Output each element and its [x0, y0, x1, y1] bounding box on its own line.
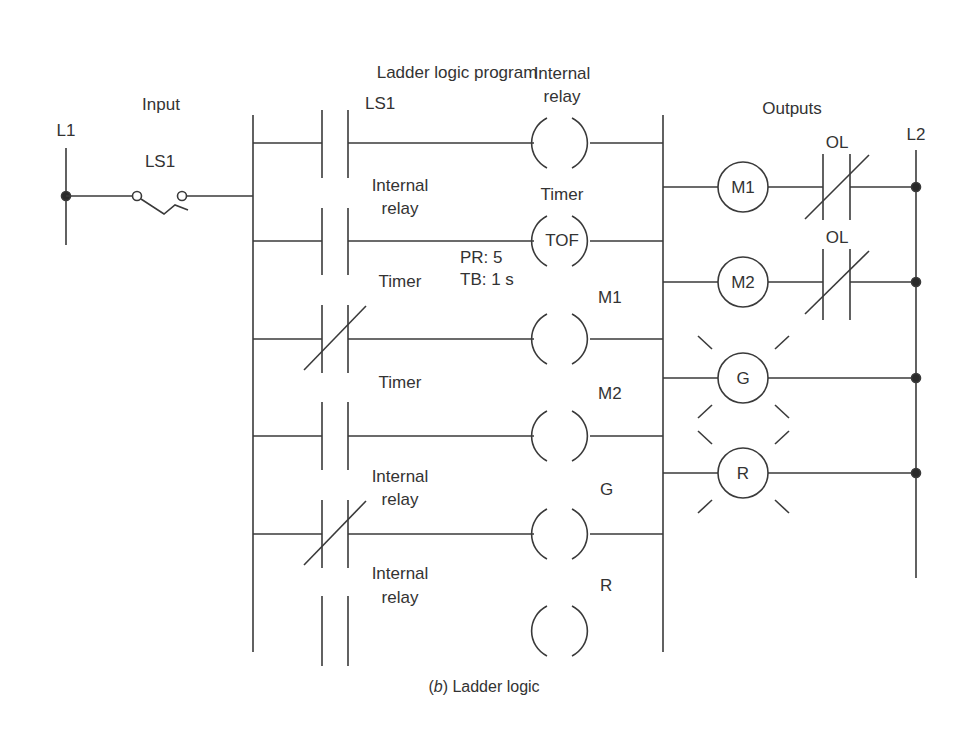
- m1-overload-label: OL: [826, 133, 849, 153]
- rung-3: [253, 305, 663, 373]
- rung5-coil-label: G: [600, 480, 613, 500]
- rung5-contact-label-line2: relay: [382, 490, 419, 510]
- rung4-contact-label: Timer: [379, 373, 422, 393]
- rung-4: [253, 402, 663, 470]
- rung2-contact-label-line2: relay: [382, 199, 419, 219]
- input-switch-label: LS1: [145, 152, 175, 172]
- rung6-contact-label-line1: Internal: [372, 564, 429, 584]
- rung1-contact-label: LS1: [365, 94, 395, 114]
- m2-motor-starter-icon: M2: [731, 273, 755, 293]
- rung-6: [322, 596, 587, 666]
- rung6-contact-label-line2: relay: [382, 588, 419, 608]
- green-pilot-light-icon: G: [736, 369, 749, 389]
- figure-caption: (b) Ladder logic: [428, 678, 539, 696]
- rung-5: [253, 500, 663, 568]
- m2-overload-label: OL: [826, 228, 849, 248]
- rung1-coil-label-line2: relay: [544, 87, 581, 107]
- output-m2: [663, 249, 921, 320]
- rung-1: [253, 110, 663, 178]
- rung-2: [253, 208, 663, 275]
- tof-coil-text: TOF: [545, 231, 579, 251]
- input-heading: Input: [142, 95, 180, 115]
- rung3-contact-label: Timer: [379, 272, 422, 292]
- rung2-coil-label: Timer: [541, 185, 584, 205]
- rung3-coil-label: M1: [598, 288, 622, 308]
- diagram-title: Ladder logic program: [377, 63, 538, 83]
- rung5-contact-label-line1: Internal: [372, 467, 429, 487]
- caption-text: ) Ladder logic: [443, 678, 540, 695]
- outputs-heading: Outputs: [762, 99, 822, 119]
- l1-label: L1: [57, 121, 76, 141]
- output-g: [663, 336, 921, 418]
- input-limit-switch-icon: [66, 192, 253, 215]
- timer-preset: PR: 5: [460, 248, 503, 268]
- rung4-coil-label: M2: [598, 384, 622, 404]
- output-m1: [663, 154, 921, 220]
- rung6-coil-label: R: [600, 576, 612, 596]
- caption-letter: b: [434, 678, 443, 695]
- output-r: [663, 431, 921, 513]
- rung2-contact-label-line1: Internal: [372, 176, 429, 196]
- red-pilot-light-icon: R: [737, 464, 749, 484]
- m1-motor-starter-icon: M1: [731, 178, 755, 198]
- timer-timebase: TB: 1 s: [460, 270, 514, 290]
- l2-label: L2: [907, 125, 926, 145]
- rung1-coil-label-line1: Internal: [534, 64, 591, 84]
